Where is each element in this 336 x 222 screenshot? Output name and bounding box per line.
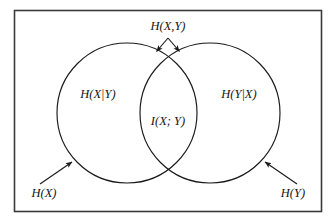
conditional-entropy-y-given-x-label: H(Y|X) bbox=[220, 87, 256, 101]
joint-entropy-label: H(X,Y) bbox=[149, 19, 185, 33]
venn-diagram-canvas: H(X,Y) H(X|Y) I(X; Y) H(Y|X) H(X) H(Y) bbox=[0, 0, 336, 222]
entropy-y-label: H(Y) bbox=[280, 186, 305, 200]
conditional-entropy-x-given-y-label: H(X|Y) bbox=[79, 87, 115, 101]
outer-border bbox=[15, 11, 322, 212]
information-diagram-figure: H(X,Y) H(X|Y) I(X; Y) H(Y|X) H(X) H(Y) bbox=[0, 0, 336, 222]
entropy-x-label: H(X) bbox=[31, 186, 57, 200]
mutual-information-label: I(X; Y) bbox=[150, 114, 185, 128]
